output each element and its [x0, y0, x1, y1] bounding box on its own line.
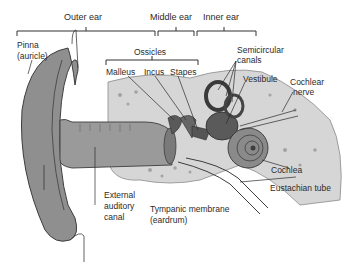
label-vestibule: Vestibule [243, 74, 278, 84]
label-pinna: Pinna [17, 40, 39, 50]
label-cochlear-nerve-2: nerve [293, 87, 314, 97]
label-incus: Incus [144, 67, 164, 77]
label-tympanic-membrane-1: Tympanic membrane [150, 204, 229, 214]
label-pinna-alt: (auricle) [17, 51, 48, 61]
label-stapes: Stapes [170, 67, 196, 77]
label-semicircular-canals-2: canals [237, 55, 262, 65]
section-label-middle-ear: Middle ear [150, 12, 192, 22]
label-external-auditory-canal-3: canal [104, 212, 124, 222]
cochlea-shape [228, 128, 268, 168]
label-cochlear-nerve-1: Cochlear [290, 77, 324, 87]
label-external-auditory-canal-2: auditory [104, 201, 134, 211]
external-auditory-canal-shape [60, 119, 172, 168]
tympanic-membrane-shape [164, 128, 176, 164]
label-tympanic-membrane-2: (eardrum) [150, 215, 187, 225]
section-label-inner-ear: Inner ear [203, 12, 239, 22]
label-malleus: Malleus [106, 67, 135, 77]
label-ossicles: Ossicles [134, 47, 166, 57]
ear-anatomy-diagram: Outer ear Middle ear Inner ear Pinna (au… [0, 0, 352, 265]
label-eustachian-tube: Eustachian tube [270, 183, 331, 193]
section-label-outer-ear: Outer ear [64, 12, 102, 22]
label-external-auditory-canal-1: External [104, 190, 135, 200]
label-cochlea: Cochlea [271, 165, 302, 175]
label-semicircular-canals-1: Semicircular [237, 45, 284, 55]
ear-illustration [0, 0, 352, 265]
